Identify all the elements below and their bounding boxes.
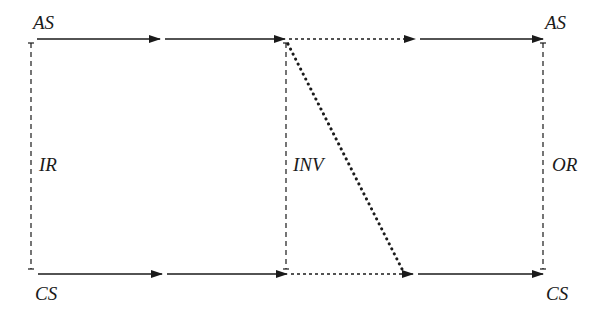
- label-or: OR: [552, 154, 578, 175]
- label-ir: IR: [38, 154, 57, 175]
- as-cs-transition-diagram: AS AS CS CS IR INV OR: [0, 0, 609, 324]
- label-inv: INV: [292, 154, 326, 175]
- label-top-left-as: AS: [31, 12, 55, 33]
- vertical-inv: [283, 43, 289, 269]
- label-bottom-left-cs: CS: [35, 283, 58, 304]
- label-top-right-as: AS: [543, 12, 567, 33]
- vertical-ir: [28, 43, 34, 269]
- vertical-or: [540, 43, 546, 269]
- vertical-connectors: [28, 43, 546, 269]
- label-bottom-right-cs: CS: [546, 283, 569, 304]
